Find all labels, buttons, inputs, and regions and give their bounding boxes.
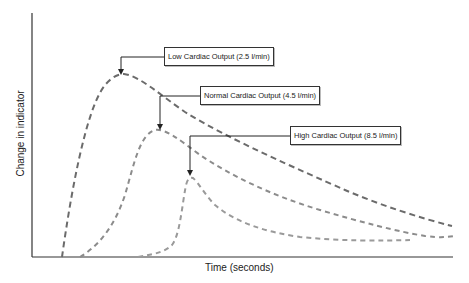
curve-normal-cardiac-output xyxy=(80,130,455,257)
x-axis-title: Time (seconds) xyxy=(205,262,274,273)
curve-high-cardiac-output xyxy=(138,178,410,257)
arrowhead-high-icon xyxy=(187,170,193,176)
y-axis-title: Change in indicator xyxy=(15,84,26,184)
label-normal-cardiac-output: Normal Cardiac Output (4.5 l/min) xyxy=(200,86,320,105)
arrow-low xyxy=(121,57,164,72)
label-low-cardiac-output: Low Cardiac Output (2.5 l/min) xyxy=(164,47,274,66)
label-high-cardiac-output: High Cardiac Output (8.5 l/min) xyxy=(290,126,401,145)
arrow-normal xyxy=(160,96,200,127)
